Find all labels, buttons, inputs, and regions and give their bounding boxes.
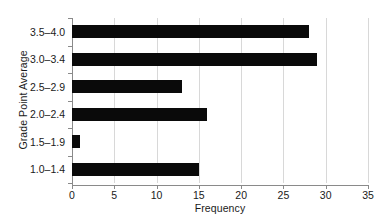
x-tick-label: 15 (193, 189, 205, 201)
x-tick-label: 5 (111, 189, 117, 201)
bar-2 (72, 53, 317, 66)
bar-slot (72, 18, 368, 46)
bar-chart: Grade Point Average 3.5–4.0 3.0–3.4 2.5–… (0, 0, 378, 218)
x-tick-label: 20 (235, 189, 247, 201)
x-tick-label: 35 (362, 189, 374, 201)
bar-4 (72, 108, 207, 121)
y-tick-label: 3.0–3.4 (24, 46, 69, 74)
bar-slot (72, 101, 368, 129)
bar-6 (72, 163, 199, 176)
bar-1 (72, 25, 309, 38)
bar-slot (72, 156, 368, 184)
x-tick-label: 10 (151, 189, 163, 201)
bar-series (72, 18, 368, 183)
y-tick-mark (68, 183, 72, 184)
bar-slot (72, 73, 368, 101)
bar-3 (72, 80, 182, 93)
y-tick-label: 1.0–1.4 (24, 156, 69, 184)
y-tick-label: 2.0–2.4 (24, 101, 69, 129)
x-tick-label: 0 (69, 189, 75, 201)
y-tick-label: 2.5–2.9 (24, 73, 69, 101)
x-axis-line (72, 185, 368, 186)
bar-slot (72, 128, 368, 156)
bar-slot (72, 46, 368, 74)
x-axis-title: Frequency (72, 202, 368, 214)
x-tick-label: 25 (278, 189, 290, 201)
gridline (368, 18, 369, 183)
bar-5 (72, 135, 80, 148)
x-axis-tick-labels: 05101520253035 (0, 189, 378, 203)
y-tick-label: 1.5–1.9 (24, 128, 69, 156)
y-tick-label: 3.5–4.0 (24, 18, 69, 46)
x-tick-label: 30 (320, 189, 332, 201)
y-axis-tick-labels: 3.5–4.0 3.0–3.4 2.5–2.9 2.0–2.4 1.5–1.9 … (24, 18, 69, 183)
